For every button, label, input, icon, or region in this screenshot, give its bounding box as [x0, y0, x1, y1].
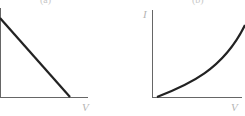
- left-curve: [0, 18, 70, 97]
- right-curve: [157, 25, 245, 97]
- right-plot: [138, 0, 245, 116]
- left-chart-panel: (a) V: [0, 0, 110, 116]
- right-x-axis-label: V: [231, 101, 238, 113]
- left-x-axis-label: V: [82, 101, 89, 113]
- right-chart-panel: (b) I V: [138, 0, 245, 116]
- left-plot: [0, 0, 110, 116]
